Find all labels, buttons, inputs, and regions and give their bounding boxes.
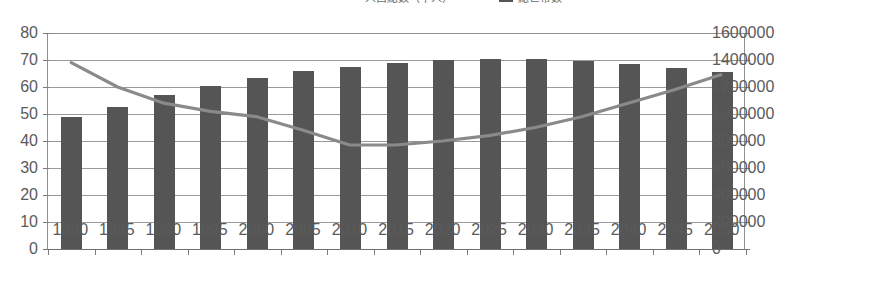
- legend-label-population-total: 人口総数（千人）: [365, 0, 453, 4]
- y-axis-left-label: 60: [2, 79, 38, 95]
- y-axis-right-label: 400000: [712, 187, 832, 203]
- y-axis-right-label: 600000: [712, 160, 832, 176]
- y-axis-left-label: 10: [2, 214, 38, 230]
- y-axis-left-label: 50: [2, 106, 38, 122]
- y-axis-left-label: 0: [2, 241, 38, 257]
- y-axis-left-label: 30: [2, 160, 38, 176]
- x-axis-label-2050: 2050: [692, 222, 752, 238]
- y-axis-left-label: 70: [2, 52, 38, 68]
- y-axis-left-label: 40: [2, 133, 38, 149]
- legend-label-total-households: 総世帯数: [518, 0, 562, 4]
- y-axis-left-label: 20: [2, 187, 38, 203]
- x-axis-line: [48, 249, 744, 250]
- y-axis-left-label: 80: [2, 25, 38, 41]
- y-axis-right-label: 1200000: [712, 79, 832, 95]
- line-path: [71, 63, 721, 145]
- y-axis-right-label: 0: [712, 241, 832, 257]
- plot-area: [47, 33, 745, 250]
- line-series: [48, 33, 744, 250]
- legend-item-total-households: 総世帯数: [499, 0, 562, 4]
- bar-marker-icon: [499, 0, 513, 2]
- y-axis-right-label: 800000: [712, 133, 832, 149]
- y-axis-right-label: 1600000: [712, 25, 832, 41]
- y-axis-right-label: 1400000: [712, 52, 832, 68]
- chart-legend: 人口総数（千人） 総世帯数: [0, 0, 888, 5]
- legend-item-population-total: 人口総数（千人）: [326, 0, 453, 4]
- combo-chart: 人口総数（千人） 総世帯数 80706050403020100 16000001…: [0, 0, 888, 291]
- y-axis-right-label: 1000000: [712, 106, 832, 122]
